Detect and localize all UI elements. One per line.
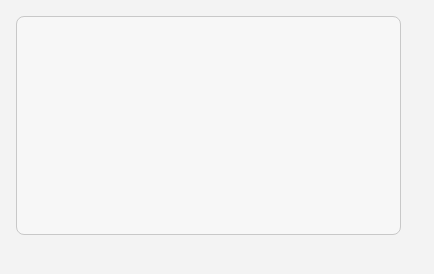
connectors [0,0,434,274]
